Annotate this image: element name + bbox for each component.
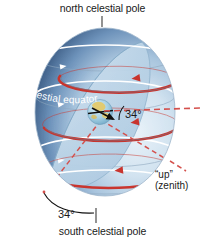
diagram-canvas: celestial equator [0,0,205,242]
south-celestial-pole-label: south celestial pole [0,226,205,237]
celestial-sphere-diagram: celestial equator north celestial pole s… [0,0,205,242]
angle-label-equator-zenith: 34° [125,109,142,121]
north-celestial-pole-label: north celestial pole [0,3,205,14]
zenith-label-zenith: (zenith) [155,181,188,192]
angle-label-pole-horizon: 34° [58,209,75,221]
zenith-label: “up” (zenith) [155,170,188,192]
lower-ray-endpoint [43,191,46,194]
